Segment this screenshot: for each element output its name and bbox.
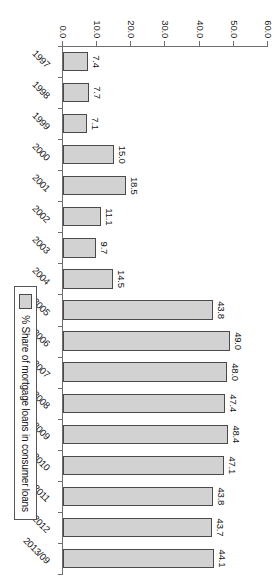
bar	[63, 238, 96, 257]
bar-value-label: 49.0	[233, 325, 244, 357]
bar	[63, 176, 126, 195]
category-axis-tick	[58, 46, 63, 47]
category-axis-tick	[58, 294, 63, 295]
category-axis-tick	[58, 419, 63, 420]
bar-value-label: 43.8	[216, 480, 227, 512]
bar	[63, 425, 228, 444]
value-axis-tick	[130, 41, 131, 46]
category-axis-tick	[58, 481, 63, 482]
value-axis-tick-label: 0.0	[58, 0, 69, 38]
legend-swatch-icon	[19, 294, 32, 309]
category-axis-tick	[58, 263, 63, 264]
bar-value-label: 47.1	[227, 449, 238, 481]
bar	[63, 362, 227, 381]
bar-value-label: 15.0	[117, 139, 128, 171]
bar-value-label: 7.4	[91, 46, 102, 78]
bar-value-label: 48.4	[231, 418, 242, 450]
chart-figure: 0.010.020.030.040.050.060.0 7.47.77.115.…	[0, 0, 274, 582]
bar	[63, 394, 225, 413]
bar-value-label: 18.5	[129, 170, 140, 202]
category-axis-tick	[58, 543, 63, 544]
bar-value-label: 14.5	[116, 263, 127, 295]
legend-label: % Share of mortgage loans in consumer lo…	[20, 315, 31, 512]
bar-value-label: 43.7	[215, 511, 226, 543]
value-axis-tick-label: 50.0	[229, 0, 240, 38]
bar-value-label: 47.4	[228, 387, 239, 419]
bar	[63, 83, 89, 102]
bar	[63, 145, 114, 164]
value-axis-tick-label: 10.0	[92, 0, 103, 38]
bar-value-label: 7.7	[92, 77, 103, 109]
category-axis-tick	[58, 108, 63, 109]
category-axis-tick	[58, 326, 63, 327]
bar-value-label: 44.1	[217, 542, 228, 574]
category-axis-tick	[58, 357, 63, 358]
bar-value-label: 43.8	[216, 294, 227, 326]
value-axis-tick-label: 30.0	[161, 0, 172, 38]
value-axis-tick-label: 60.0	[263, 0, 274, 38]
bar-value-label: 48.0	[230, 356, 241, 388]
category-axis-tick	[58, 139, 63, 140]
value-axis-tick	[267, 41, 268, 46]
bar	[63, 269, 113, 288]
bar	[63, 114, 87, 133]
bar-value-label: 9.7	[99, 232, 110, 264]
category-axis-tick	[58, 201, 63, 202]
value-axis-tick	[233, 41, 234, 46]
bar	[63, 207, 101, 226]
bar	[63, 518, 212, 537]
chart-legend: % Share of mortgage loans in consumer lo…	[14, 286, 37, 520]
bar	[63, 52, 88, 71]
category-axis-tick	[58, 77, 63, 78]
category-axis-tick	[58, 232, 63, 233]
bar	[63, 300, 213, 319]
value-axis-tick-label: 20.0	[126, 0, 137, 38]
bar-chart-plot-area: 0.010.020.030.040.050.060.0 7.47.77.115.…	[0, 0, 274, 582]
category-axis-tick	[58, 450, 63, 451]
bar-value-label: 11.1	[104, 201, 115, 233]
category-axis-tick	[58, 170, 63, 171]
bar	[63, 331, 230, 350]
bar	[63, 487, 213, 506]
category-axis-tick	[58, 574, 63, 575]
bar-value-label: 7.1	[90, 108, 101, 140]
category-axis-tick	[58, 388, 63, 389]
value-axis-tick	[165, 41, 166, 46]
value-axis-tick	[199, 41, 200, 46]
value-axis-tick-label: 40.0	[195, 0, 206, 38]
category-axis-tick	[58, 512, 63, 513]
bar	[63, 549, 214, 568]
bar	[63, 456, 224, 475]
